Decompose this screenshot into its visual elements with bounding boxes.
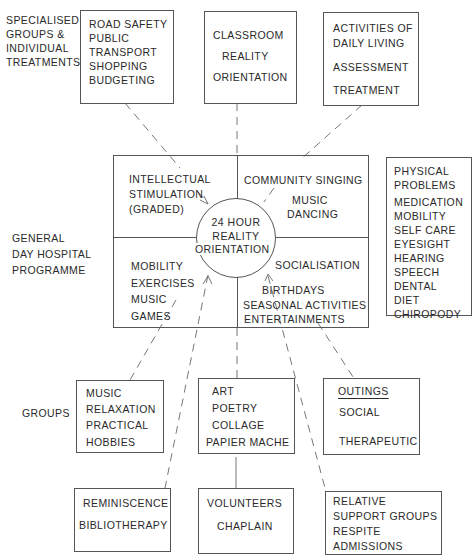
label-line: DAY HOSPITAL [12, 246, 92, 262]
box-text: TREATMENT [333, 84, 400, 96]
box-text: EYESIGHT [394, 237, 463, 251]
box-text: PRACTICAL [86, 419, 149, 431]
reality-orientation-circle: 24 HOUR REALITY [196, 198, 276, 278]
box-text: ORIENTATION [213, 71, 288, 83]
box-text: DIET [394, 293, 463, 307]
outings-title: OUTINGS [338, 385, 389, 397]
birthdays-text: BIRTHDAYS [262, 284, 325, 296]
box-text: MOBILITY [394, 209, 463, 223]
circle-text: 24 HOUR [197, 216, 275, 228]
mobility-text: MOBILITY [131, 260, 183, 272]
entertainments-text: ENTERTAINMENTS [244, 313, 345, 325]
groups-label: GROUPS [22, 406, 70, 420]
label-line: PROGRAMME [12, 262, 92, 278]
box-text: BIBLIOTHERAPY [79, 519, 168, 531]
outings-box: OUTINGS SOCIAL THERAPEUTIC [323, 378, 420, 455]
box-text: PHYSICAL [394, 164, 463, 178]
box-text: CLASSROOM [213, 29, 284, 41]
box-text: RESPITE [333, 525, 381, 537]
specialised-groups-label: SPECIALISED GROUPS & INDIVIDUAL TREATMEN… [6, 13, 80, 69]
box-text: SELF CARE [394, 223, 463, 237]
circle-text: REALITY [197, 230, 275, 242]
exercises-text: EXERCISES [131, 277, 195, 289]
classroom-box: CLASSROOM REALITY ORIENTATION [204, 11, 297, 104]
box-text: PAPIER MACHE [206, 436, 289, 448]
box-text: ADMISSIONS [333, 540, 403, 552]
box-text: RELATIVE [333, 495, 386, 507]
relative-support-box: RELATIVE SUPPORT GROUPS RESPITE ADMISSIO… [325, 491, 442, 555]
box-text: HEARING [394, 251, 463, 265]
box-text: ASSESSMENT [333, 61, 409, 73]
label-line: GROUPS & [6, 27, 80, 41]
general-day-hospital-label: GENERAL DAY HOSPITAL PROGRAMME [12, 230, 92, 278]
box-text: MUSIC [86, 387, 122, 399]
box-text: DAILY LIVING [333, 37, 405, 49]
reminiscence-box: REMINISCENCE BIBLIOTHERAPY [74, 488, 171, 552]
label-line: GENERAL [12, 230, 92, 246]
box-text: REALITY [222, 50, 269, 62]
box-text: MEDICATION [394, 195, 463, 209]
box-text: TRANSPORT [89, 46, 157, 58]
physical-problems-box: PHYSICAL PROBLEMS MEDICATION MOBILITY SE… [386, 157, 472, 316]
music-text: MUSIC [292, 194, 328, 206]
box-text: PROBLEMS [394, 178, 463, 192]
box-text: ART [212, 385, 234, 397]
seasonal-activities-text: SEASONAL ACTIVITIES [243, 299, 366, 311]
box-text: SPEECH [394, 265, 463, 279]
label-line: SPECIALISED [6, 13, 80, 27]
box-text: CHIROPODY [394, 307, 463, 321]
box-text: DENTAL [394, 279, 463, 293]
box-text: RELAXATION [86, 403, 156, 415]
label-line: TREATMENTS [6, 55, 80, 69]
dancing-text: DANCING [287, 208, 338, 220]
box-text: SHOPPING [89, 60, 148, 72]
box-text: PUBLIC [89, 32, 129, 44]
box-text: COLLAGE [212, 419, 264, 431]
box-text: POETRY [212, 402, 257, 414]
circle-text-orientation: ORIENTATION [194, 243, 271, 255]
box-text: ROAD SAFETY [89, 18, 168, 30]
games-text: GAMES [131, 310, 171, 322]
box-text: ACTIVITIES OF [333, 22, 413, 34]
box-text: THERAPEUTIC [339, 435, 418, 447]
volunteers-box: VOLUNTEERS CHAPLAIN [198, 488, 294, 554]
box-text: SOCIAL [339, 406, 380, 418]
intellectual-text: (GRADED) [129, 203, 184, 215]
intellectual-text: INTELLECTUAL [129, 173, 211, 185]
community-singing-text: COMMUNITY SINGING [244, 174, 363, 186]
box-text: HOBBIES [86, 436, 135, 448]
label-line: INDIVIDUAL [6, 41, 80, 55]
music-relaxation-box: MUSIC RELAXATION PRACTICAL HOBBIES [76, 380, 164, 453]
physical-problems-list: PHYSICAL PROBLEMS MEDICATION MOBILITY SE… [394, 164, 463, 321]
box-text: BUDGETING [89, 74, 155, 86]
box-text: REMINISCENCE [83, 497, 168, 509]
road-safety-box: ROAD SAFETY PUBLIC TRANSPORT SHOPPING BU… [80, 10, 174, 104]
box-text: CHAPLAIN [217, 520, 273, 532]
intellectual-text: STIMULATION [129, 188, 203, 200]
activities-daily-living-box: ACTIVITIES OF DAILY LIVING ASSESSMENT TR… [323, 12, 419, 106]
box-text: VOLUNTEERS [207, 497, 282, 509]
socialisation-text: SOCIALISATION [275, 259, 360, 271]
art-poetry-box: ART POETRY COLLAGE PAPIER MACHE [198, 378, 295, 454]
box-text: SUPPORT GROUPS [333, 510, 437, 522]
music-text: MUSIC [131, 293, 167, 305]
